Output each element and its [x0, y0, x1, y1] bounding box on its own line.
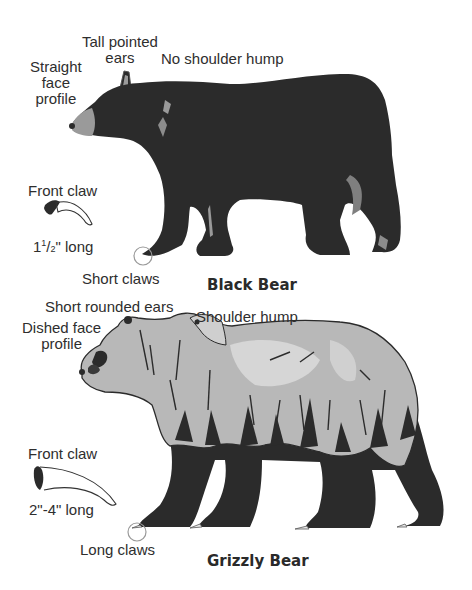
label-front-claw: Front claw	[28, 446, 97, 462]
label-dished-face-profile: Dished face profile	[22, 320, 101, 352]
label-long-claws: Long claws	[80, 542, 155, 558]
label-short-rounded-ears: Short rounded ears	[45, 299, 173, 315]
grizzly-bear-title: Grizzly Bear	[207, 552, 309, 570]
label-claw-length: 2"-4" long	[29, 502, 94, 518]
label-shoulder-hump: Shoulder hump	[196, 309, 298, 325]
grizzly-claw-icon	[34, 466, 116, 505]
